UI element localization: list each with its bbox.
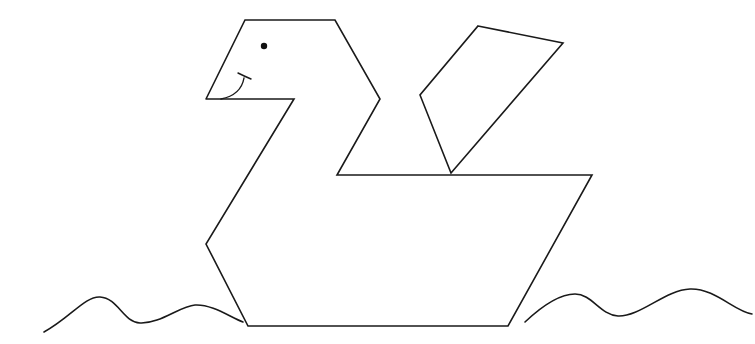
swan-drawing <box>0 0 755 344</box>
eye-icon <box>261 43 267 49</box>
smile-mouth <box>221 78 244 99</box>
swan-body-outline <box>206 20 592 326</box>
wave-right <box>525 289 752 322</box>
swan-wing <box>420 26 563 173</box>
wave-left <box>44 297 243 332</box>
